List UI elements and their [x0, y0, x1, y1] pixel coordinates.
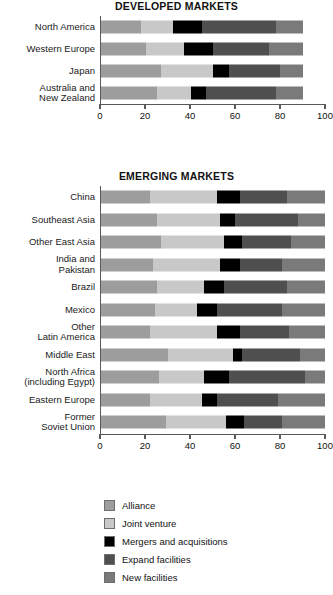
bar-row: Australia andNew Zealand — [0, 82, 325, 104]
legend-item-joint-venture: Joint venture — [0, 514, 325, 532]
bar-track — [100, 38, 325, 60]
bar-segment-mergers-and-acquisitions — [202, 393, 218, 406]
bar-segment-expand-facilities — [213, 43, 269, 56]
legend-item-alliance: Alliance — [0, 496, 325, 514]
bar-row: OtherLatin America — [0, 321, 325, 344]
category-label-china: China — [0, 192, 100, 203]
bar-segment-expand-facilities — [242, 236, 291, 249]
bar-segment-expand-facilities — [202, 21, 276, 34]
bar-track — [100, 321, 325, 344]
x-tick — [144, 434, 145, 439]
category-label-japan: Japan — [0, 66, 100, 77]
bar-segment-mergers-and-acquisitions — [191, 87, 207, 100]
bar-segment-alliance — [101, 43, 146, 56]
legend-swatch-joint-venture — [104, 518, 115, 529]
category-label-line: Pakistan — [0, 265, 95, 276]
bar-track — [100, 82, 325, 104]
x-tick — [279, 104, 280, 109]
category-label-line: China — [0, 192, 95, 203]
category-label-line: Other East Asia — [0, 237, 95, 248]
bar-segment-joint-venture — [150, 191, 217, 204]
category-label-line: Mexico — [0, 305, 95, 316]
bar-segment-joint-venture — [146, 43, 184, 56]
bar-segment-alliance — [101, 416, 166, 429]
bar-segment-mergers-and-acquisitions — [220, 213, 236, 226]
category-label-india-and-pakistan: India andPakistan — [0, 254, 100, 275]
legend-swatch-expand-facilities — [104, 554, 115, 565]
bar-segment-expand-facilities — [242, 348, 300, 361]
category-label-other-latin-america: OtherLatin America — [0, 322, 100, 343]
legend-label: Expand facilities — [122, 554, 191, 565]
bar-segment-mergers-and-acquisitions — [173, 21, 202, 34]
bar-segment-alliance — [101, 258, 153, 271]
bar-segment-mergers-and-acquisitions — [224, 236, 242, 249]
bar-segment-expand-facilities — [240, 326, 289, 339]
stacked-bar-australia-and-new-zealand — [101, 87, 325, 100]
legend-item-new-facilities: New facilities — [0, 568, 325, 586]
bar-segment-joint-venture — [150, 326, 217, 339]
bar-segment-expand-facilities — [206, 87, 275, 100]
bar-segment-mergers-and-acquisitions — [213, 65, 229, 78]
bar-segment-alliance — [101, 87, 157, 100]
bar-segment-alliance — [101, 303, 155, 316]
bar-segment-new-facilities — [282, 416, 325, 429]
bar-track — [100, 60, 325, 82]
x-tick — [234, 434, 235, 439]
stacked-bar-japan — [101, 65, 325, 78]
bar-segment-expand-facilities — [235, 213, 298, 226]
bar-segment-joint-venture — [161, 236, 224, 249]
bar-segment-new-facilities — [298, 213, 325, 226]
category-label-north-africa-including-egypt: North Africa(including Egypt) — [0, 367, 100, 388]
bar-track — [100, 186, 325, 209]
bar-segment-new-facilities — [282, 303, 325, 316]
category-label-line: North America — [0, 22, 95, 33]
category-label-line: (including Egypt) — [0, 377, 95, 388]
category-label-australia-and-new-zealand: Australia andNew Zealand — [0, 83, 100, 104]
bar-segment-alliance — [101, 236, 161, 249]
panel-developed-markets: DEVELOPED MARKETS North AmericaWestern E… — [0, 0, 325, 148]
x-tick — [234, 104, 235, 109]
stacked-bar-north-africa-including-egypt — [101, 371, 325, 384]
stacked-bar-north-america — [101, 21, 325, 34]
legend-swatch-alliance — [104, 500, 115, 511]
bar-segment-mergers-and-acquisitions — [220, 258, 240, 271]
stacked-bar-other-east-asia — [101, 236, 325, 249]
legend-item-expand-facilities: Expand facilities — [0, 550, 325, 568]
bar-segment-joint-venture — [157, 281, 204, 294]
bar-segment-mergers-and-acquisitions — [204, 281, 224, 294]
category-label-line: Western Europe — [0, 44, 95, 55]
x-tick — [189, 104, 190, 109]
category-label-eastern-europe: Eastern Europe — [0, 395, 100, 406]
bar-track — [100, 254, 325, 277]
bar-track — [100, 366, 325, 389]
bar-segment-joint-venture — [150, 393, 202, 406]
bar-segment-expand-facilities — [229, 65, 281, 78]
panel-title-emerging: EMERGING MARKETS — [0, 170, 325, 186]
category-label-other-east-asia: Other East Asia — [0, 237, 100, 248]
bar-segment-alliance — [101, 191, 150, 204]
chart-legend: AllianceJoint ventureMergers and acquisi… — [0, 496, 325, 586]
x-axis-developed: 020406080100 — [100, 104, 325, 124]
legend-item-mergers-and-acquisitions: Mergers and acquisitions — [0, 532, 325, 550]
legend-label: Joint venture — [122, 518, 176, 529]
axis-line — [100, 434, 325, 435]
bar-segment-mergers-and-acquisitions — [233, 348, 242, 361]
bar-segment-new-facilities — [287, 281, 325, 294]
bar-segment-expand-facilities — [244, 416, 282, 429]
legend-swatch-mergers-and-acquisitions — [104, 536, 115, 547]
bar-segment-alliance — [101, 326, 150, 339]
x-tick-label: 20 — [140, 110, 151, 121]
category-label-former-soviet-union: FormerSoviet Union — [0, 412, 100, 433]
bar-rows-developed: North AmericaWestern EuropeJapanAustrali… — [0, 16, 325, 104]
bar-segment-expand-facilities — [229, 371, 305, 384]
bar-segment-new-facilities — [278, 393, 325, 406]
panel-title-developed: DEVELOPED MARKETS — [0, 0, 325, 16]
bar-track — [100, 389, 325, 412]
x-tick-label: 100 — [317, 110, 333, 121]
bar-segment-expand-facilities — [240, 258, 283, 271]
category-label-middle-east: Middle East — [0, 350, 100, 361]
category-label-brazil: Brazil — [0, 282, 100, 293]
x-tick-label: 40 — [185, 110, 196, 121]
x-tick-label: 40 — [185, 440, 196, 451]
bar-segment-joint-venture — [168, 348, 233, 361]
